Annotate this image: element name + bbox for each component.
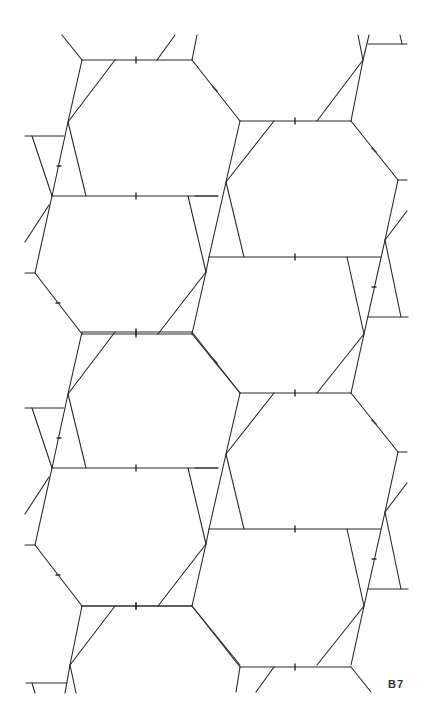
- top-stubs: [62, 35, 407, 121]
- figure-label: B7: [388, 678, 404, 690]
- tile-row-1: [25, 57, 408, 393]
- bottom-stubs: [26, 603, 371, 693]
- tile-row-2: [25, 329, 408, 665]
- hexagon-tiling-diagram: [0, 0, 436, 722]
